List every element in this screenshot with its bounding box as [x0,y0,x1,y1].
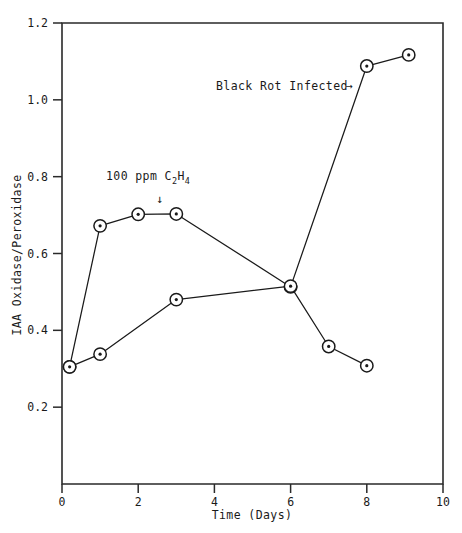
y-axis-title: IAA Oxidase/Peroxidase [10,174,24,335]
x-axis-title: Time (Days) [212,508,293,522]
y-tick-label: 0.6 [27,247,48,261]
x-tick-label: 6 [287,495,294,509]
y-tick-label: 1.0 [27,93,48,107]
data-point-center-dot [175,298,178,301]
data-point-center-dot [99,224,102,227]
y-tick-label: 0.8 [27,170,48,184]
data-point-center-dot [365,64,368,67]
ethylene-label-mid-h: H [177,169,184,183]
y-tick-label: 0.4 [27,323,48,337]
x-tick-label: 2 [135,495,142,509]
chart-figure: 0.20.40.60.81.01.2 0246810 Time (Days) I… [0,0,462,533]
data-point-center-dot [289,285,292,288]
x-tick-label: 10 [436,495,450,509]
y-tick-label: 1.2 [27,16,48,30]
x-tick-label: 4 [211,495,218,509]
data-point-center-dot [137,213,140,216]
data-point-center-dot [407,53,410,56]
x-tick-label: 8 [363,495,370,509]
data-point-center-dot [68,365,71,368]
data-point-center-dot [175,212,178,215]
data-point-center-dot [99,353,102,356]
ethylene-label-sub-4: 4 [185,176,191,186]
right-arrow-icon: → [346,79,353,93]
y-tick-label: 0.2 [27,400,48,414]
down-arrow-icon: ↓ [156,192,163,206]
chart-svg: 0.20.40.60.81.01.2 0246810 Time (Days) I… [0,0,462,533]
x-tick-label: 0 [59,495,66,509]
black-rot-infected-label: Black Rot Infected [216,79,348,93]
annotation-black-rot: Black Rot Infected → [216,79,353,93]
ethylene-label-main: 100 ppm C [106,169,172,183]
data-point-center-dot [365,364,368,367]
data-point-center-dot [327,345,330,348]
